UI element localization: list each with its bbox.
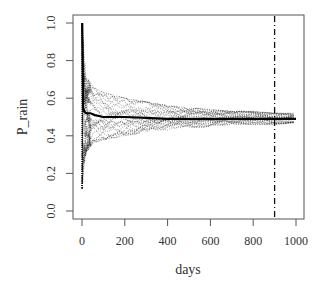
x-tick-label: 1000 [284, 234, 308, 248]
x-axis-title: days [175, 262, 201, 277]
y-tick-label: 0.4 [44, 128, 58, 143]
simulation-trace [82, 23, 293, 119]
x-tick-label: 400 [159, 234, 177, 248]
simulation-trace [82, 23, 293, 118]
y-tick-label: 1.0 [44, 16, 58, 31]
simulation-trace [82, 23, 293, 116]
simulation-trace [82, 23, 293, 130]
mean-line [82, 23, 296, 119]
y-tick-label: 0.6 [44, 91, 58, 106]
y-tick-label: 0.2 [44, 166, 58, 181]
x-tick-label: 200 [116, 234, 134, 248]
simulation-trace [82, 122, 293, 189]
x-axis: 02004006008001000 [79, 219, 308, 248]
y-axis-title: P_rain [15, 99, 30, 136]
simulation-trace [82, 37, 293, 188]
simulation-trace [82, 115, 293, 188]
simulation-trace [82, 23, 293, 137]
y-tick-label: 0.0 [44, 204, 58, 219]
simulation-trace [82, 115, 293, 188]
y-tick-label: 0.8 [44, 53, 58, 68]
x-tick-label: 600 [201, 234, 219, 248]
y-axis: 0.00.20.40.60.81.0 [44, 16, 73, 219]
simulation-trace [82, 118, 293, 189]
simulation-trace [82, 23, 293, 117]
simulation-trace [82, 120, 293, 189]
simulation-trace [82, 23, 293, 183]
simulation-trace [82, 114, 293, 188]
simulation-trace [82, 40, 293, 189]
simulation-trace [82, 23, 293, 124]
simulation-trace [82, 117, 293, 189]
simulation-trace [82, 115, 293, 188]
x-tick-label: 800 [244, 234, 262, 248]
simulation-trace [82, 23, 293, 120]
simulation-trace [82, 23, 293, 156]
simulation-trace [82, 23, 293, 125]
simulation-traces [82, 23, 293, 188]
chart: 02004006008001000 0.00.20.40.60.81.0 day… [0, 0, 322, 293]
simulation-trace [82, 114, 293, 188]
x-tick-label: 0 [79, 234, 85, 248]
